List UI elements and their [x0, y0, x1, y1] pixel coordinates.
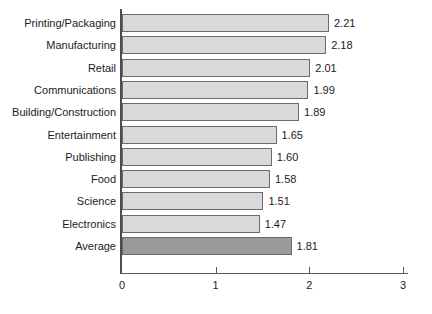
bar-value-label: 1.65	[282, 130, 303, 141]
bar-value-label: 2.21	[334, 18, 355, 29]
bar-value-label: 2.18	[331, 40, 352, 51]
bar	[122, 170, 270, 188]
category-label: Manufacturing	[46, 40, 116, 51]
category-label: Average	[75, 241, 116, 252]
bar-value-label: 1.51	[268, 196, 289, 207]
x-axis-tick	[403, 267, 404, 274]
category-label: Publishing	[65, 152, 116, 163]
category-label: Entertainment	[48, 130, 116, 141]
plot-area: 2.212.182.011.991.891.651.601.581.511.47…	[122, 9, 432, 274]
bar-value-label: 1.89	[304, 107, 325, 118]
bar	[122, 81, 308, 99]
x-axis-tick	[309, 267, 310, 274]
bar-value-label: 1.60	[277, 152, 298, 163]
category-label: Retail	[88, 63, 116, 74]
category-label: Communications	[34, 85, 116, 96]
bar	[122, 36, 326, 54]
bar-chart: Printing/PackagingManufacturingRetailCom…	[0, 0, 432, 314]
bar	[122, 215, 260, 233]
x-axis-line	[120, 273, 408, 274]
bar-value-label: 2.01	[315, 63, 336, 74]
x-axis-tick	[216, 267, 217, 274]
bar	[122, 148, 272, 166]
bar-value-label: 1.47	[265, 219, 286, 230]
bar-value-label: 1.81	[297, 241, 318, 252]
x-axis-tick-label: 0	[112, 280, 132, 291]
bar	[122, 14, 329, 32]
x-axis-tick-label: 3	[393, 280, 413, 291]
bar	[122, 59, 310, 77]
x-axis-tick-label: 1	[206, 280, 226, 291]
bar	[122, 237, 292, 255]
bar-value-label: 1.58	[275, 174, 296, 185]
category-label: Electronics	[62, 219, 116, 230]
category-label: Science	[77, 196, 116, 207]
bar	[122, 192, 263, 210]
category-label: Building/Construction	[12, 107, 116, 118]
bar	[122, 103, 299, 121]
bar-value-label: 1.99	[313, 85, 334, 96]
bar	[122, 126, 277, 144]
category-axis-labels: Printing/PackagingManufacturingRetailCom…	[0, 0, 116, 314]
category-label: Food	[91, 174, 116, 185]
x-axis-tick-label: 2	[299, 280, 319, 291]
category-label: Printing/Packaging	[24, 18, 116, 29]
